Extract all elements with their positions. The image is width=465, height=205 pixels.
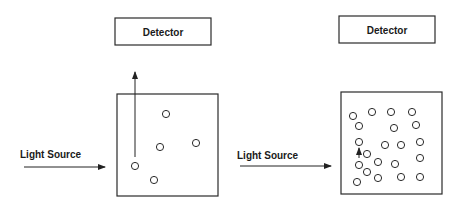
particle-circle — [156, 143, 163, 150]
particle-circle — [192, 139, 199, 146]
particle-circle — [397, 173, 404, 180]
particle-circle — [412, 121, 419, 128]
particle-circle — [355, 122, 362, 129]
particle-circle — [416, 173, 423, 180]
particle-circle — [397, 141, 404, 148]
particle-circle — [150, 176, 157, 183]
particle-circle — [368, 108, 375, 115]
particle-circle — [355, 138, 362, 145]
particle-circle — [355, 161, 362, 168]
particle-circle — [363, 168, 370, 175]
particle-circle — [162, 110, 169, 117]
particle-circle — [349, 112, 356, 119]
particle-circle — [391, 160, 398, 167]
sample-box — [117, 94, 218, 196]
detector-label: Detector — [143, 27, 184, 38]
particle-circle — [387, 108, 394, 115]
particle-circle — [374, 158, 381, 165]
particle-circle — [363, 150, 370, 157]
particle-circle — [390, 124, 397, 131]
particle-circle — [416, 154, 423, 161]
particle-circle — [131, 162, 138, 169]
panel-dense: Detector Light Source — [237, 16, 442, 194]
panel-sparse: Detector Light Source — [20, 18, 218, 196]
light-source-label: Light Source — [20, 149, 82, 160]
particle-circle — [353, 178, 360, 185]
particle-circle — [416, 138, 423, 145]
light-source-label: Light Source — [237, 150, 299, 161]
detector-label: Detector — [367, 25, 408, 36]
light-scattering-diagram: Detector Light Source Detector Light Sou… — [0, 0, 465, 205]
particle-circle — [408, 108, 415, 115]
particle-circle — [374, 174, 381, 181]
particle-circle — [381, 141, 388, 148]
